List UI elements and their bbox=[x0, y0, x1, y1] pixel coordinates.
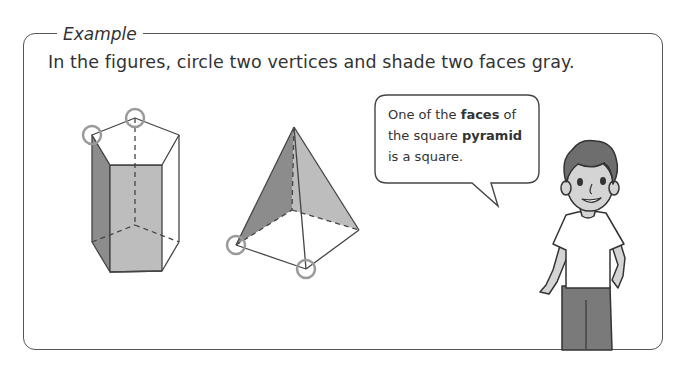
square-pyramid-figure bbox=[227, 127, 359, 278]
bold-word-faces: faces bbox=[461, 107, 500, 122]
speech-bubble-text: One of the faces of the square pyramid i… bbox=[388, 104, 538, 167]
pentagonal-prism-figure bbox=[83, 109, 179, 272]
boy-pants bbox=[562, 286, 612, 350]
bubble-line-3: is a square. bbox=[388, 146, 538, 167]
bubble-line-2: the square pyramid bbox=[388, 125, 538, 146]
bubble-line-1: One of the faces of bbox=[388, 104, 538, 125]
bold-word-pyramid: pyramid bbox=[462, 128, 522, 143]
prism-shaded-face-front bbox=[110, 165, 162, 272]
boy-illustration bbox=[540, 140, 625, 350]
figures-canvas bbox=[0, 0, 687, 370]
